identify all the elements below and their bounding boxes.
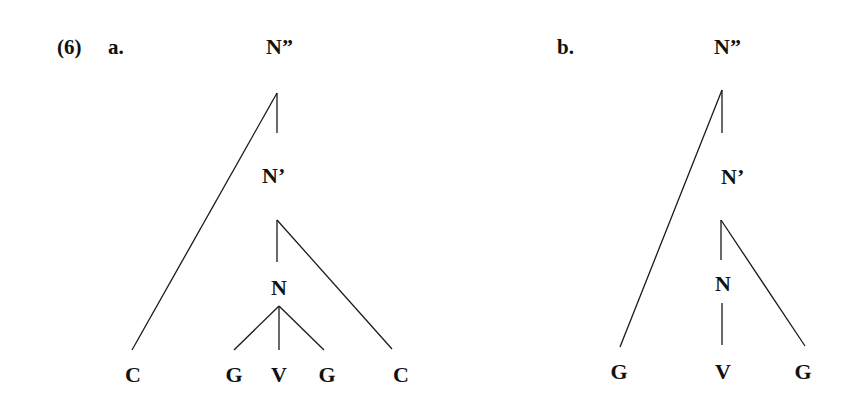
tree-a-edge-head-g1 bbox=[234, 306, 279, 350]
tree-b-leaf-v: V bbox=[715, 359, 731, 384]
tree-a-leaf-c2: C bbox=[393, 362, 409, 387]
tree-b: b. N” N’ N G V G bbox=[557, 34, 812, 384]
tree-b-edge-root-g1 bbox=[620, 90, 722, 347]
tree-b-leaf-g1: G bbox=[610, 359, 627, 384]
syllable-structure-diagram: (6) a. N” N’ N C G V G C b. N” N’ N G V … bbox=[0, 0, 859, 406]
tree-b-label: b. bbox=[557, 35, 574, 59]
tree-a-leaf-g1: G bbox=[225, 362, 242, 387]
tree-a-leaf-c1: C bbox=[125, 362, 141, 387]
tree-a-edge-head-g2 bbox=[279, 306, 324, 350]
tree-b-head-node: N bbox=[715, 271, 731, 296]
tree-a-leaf-g2: G bbox=[318, 362, 335, 387]
tree-b-edge-bar-g2 bbox=[721, 220, 805, 346]
tree-a-leaf-v: V bbox=[271, 362, 287, 387]
tree-b-root-node: N” bbox=[714, 34, 741, 59]
tree-a-label: a. bbox=[108, 35, 124, 59]
tree-a-edge-bar-c2 bbox=[277, 220, 392, 349]
tree-a-root-node: N” bbox=[266, 34, 293, 59]
tree-a: (6) a. N” N’ N C G V G C bbox=[57, 34, 409, 387]
tree-a-head-node: N bbox=[271, 275, 287, 300]
tree-b-leaf-g2: G bbox=[794, 359, 811, 384]
tree-a-edge-root-c1 bbox=[132, 93, 277, 350]
tree-a-bar-node: N’ bbox=[262, 163, 285, 188]
tree-b-bar-node: N’ bbox=[721, 164, 744, 189]
example-number: (6) bbox=[57, 35, 82, 59]
